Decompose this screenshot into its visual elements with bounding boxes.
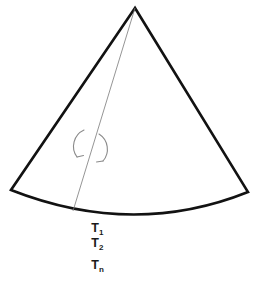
label-tn-subscript: n <box>99 265 104 274</box>
sector-diagram: T1 T2 Tn <box>0 0 258 284</box>
thickness-labels-group: T1 T2 Tn <box>60 221 128 275</box>
label-t2-subscript: 2 <box>99 243 104 252</box>
label-t1-subscript: 1 <box>99 228 104 237</box>
figure-canvas: T1 T2 Tn <box>0 0 258 284</box>
